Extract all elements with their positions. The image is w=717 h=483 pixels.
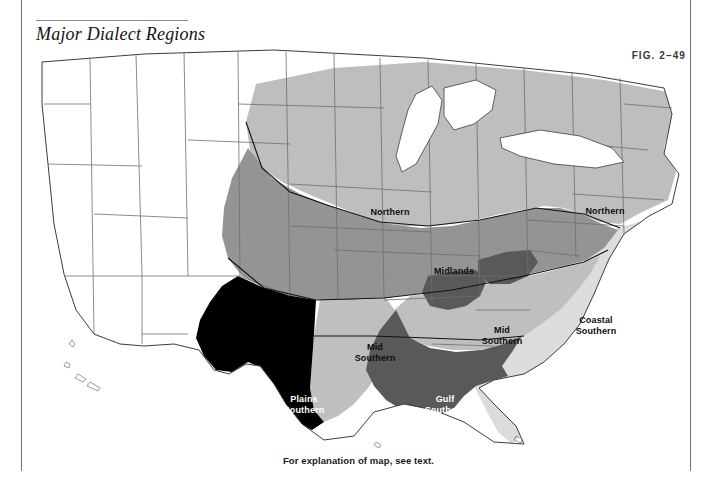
dialect-regions-map: Northern Northern Midlands Mid Southern … [24, 44, 688, 452]
region-plains-southern [196, 276, 324, 430]
column-rule-left [21, 0, 22, 471]
page-title: Major Dialect Regions [36, 24, 256, 45]
map-svg [24, 44, 688, 452]
figure-page: Major Dialect Regions Fig. 2–49 [0, 0, 717, 483]
figure-caption: For explanation of map, see text. [0, 455, 717, 466]
title-divider [36, 20, 188, 21]
title-block: Major Dialect Regions [36, 20, 256, 45]
column-rule-right [690, 0, 691, 471]
